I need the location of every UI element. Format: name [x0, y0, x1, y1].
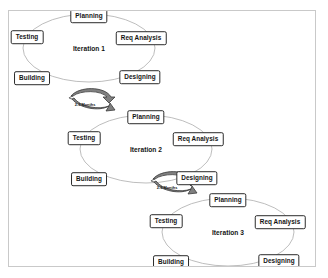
phase-box-iteration-2-req-analysis[interactable]: Req Analysis: [173, 132, 224, 146]
phase-box-iteration-1-building[interactable]: Building: [14, 71, 50, 85]
phase-box-iteration-2-planning[interactable]: Planning: [127, 110, 164, 124]
phase-box-iteration-1-planning[interactable]: Planning: [70, 10, 107, 23]
phase-box-iteration-1-designing[interactable]: Designing: [119, 70, 160, 84]
cycle-label-iteration-2: Iteration 2: [130, 146, 162, 153]
phase-box-iteration-3-building[interactable]: Building: [153, 255, 189, 267]
transition-label-transition-2-to-3: 2-3 Months: [157, 185, 178, 190]
phase-box-iteration-3-designing[interactable]: Designing: [258, 254, 299, 267]
phase-box-iteration-3-req-analysis[interactable]: Req Analysis: [255, 215, 306, 229]
phase-box-iteration-2-designing[interactable]: Designing: [176, 171, 217, 185]
phase-box-iteration-2-building[interactable]: Building: [71, 172, 107, 186]
cycle-label-iteration-1: Iteration 1: [73, 45, 105, 52]
cycle-label-iteration-3: Iteration 3: [212, 229, 244, 236]
diagram-frame: Iteration 1PlanningReq AnalysisDesigning…: [8, 10, 316, 267]
transition-arrow-transition-1-to-2: [69, 89, 115, 111]
phase-box-iteration-2-testing[interactable]: Testing: [68, 131, 101, 145]
cycle-ellipses: [23, 14, 294, 266]
phase-box-iteration-1-req-analysis[interactable]: Req Analysis: [116, 31, 167, 45]
phase-box-iteration-1-testing[interactable]: Testing: [11, 30, 44, 44]
phase-box-iteration-3-testing[interactable]: Testing: [150, 214, 183, 228]
phase-box-iteration-3-planning[interactable]: Planning: [209, 193, 246, 207]
transition-label-transition-1-to-2: 2-3 Months: [75, 102, 96, 107]
